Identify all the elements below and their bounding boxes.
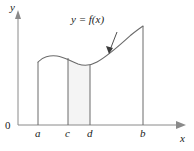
annotation-leader-line [110,32,117,50]
tick-label-d: d [87,128,93,139]
x-axis-arrowhead-icon [176,121,186,129]
y-axis-arrowhead-icon [15,10,21,19]
tick-label-c: c [65,128,70,139]
function-curve [38,26,143,65]
shaded-region-cd [68,58,90,125]
origin-label: 0 [5,120,11,131]
tick-label-b: b [140,128,146,139]
annotation-arrowhead-icon [106,46,113,54]
y-axis-label: y [10,2,15,13]
tick-label-a: a [35,128,41,139]
figure-container: y x 0 a c d b y = f(x) [0,0,194,151]
x-axis-label: x [180,133,185,144]
curve-function-label: y = f(x) [71,14,104,25]
